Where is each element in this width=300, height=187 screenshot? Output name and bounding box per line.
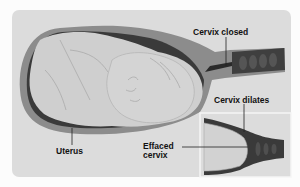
label-cervix: cervix	[143, 151, 168, 160]
label-cervix-closed: Cervix closed	[193, 28, 248, 37]
label-uterus: Uterus	[56, 147, 83, 156]
inset-cervix-dilates	[200, 113, 291, 177]
label-cervix-dilates: Cervix dilates	[214, 96, 269, 105]
